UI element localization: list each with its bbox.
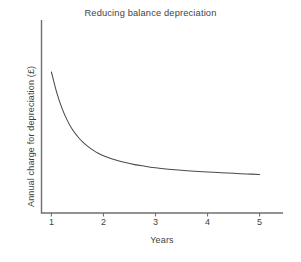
x-tick-label-4: 4 — [196, 217, 220, 227]
x-tick-label-3: 3 — [143, 217, 167, 227]
x-tick-label-5: 5 — [248, 217, 272, 227]
x-tick-label-1: 1 — [39, 217, 63, 227]
depreciation-curve — [51, 72, 259, 174]
chart-figure: Reducing balance depreciation Annual cha… — [0, 0, 301, 262]
x-tick-label-2: 2 — [91, 217, 115, 227]
